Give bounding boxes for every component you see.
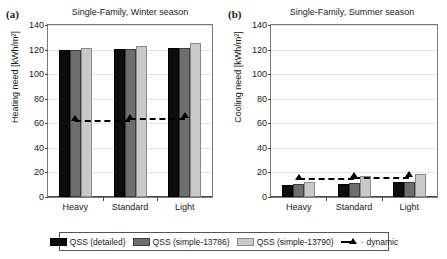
y-tick-label: 60: [34, 119, 44, 128]
gridline: [271, 50, 437, 51]
y-tick-mark: [45, 99, 48, 100]
x-tick-label: Standard: [336, 202, 373, 212]
figure-root: (a) Single-Family, Winter season Heating…: [0, 0, 447, 259]
bar: [125, 49, 136, 197]
bar: [393, 182, 404, 197]
chart-panel-b: (b) Single-Family, Summer season Cooling…: [224, 0, 447, 228]
gridline: [271, 74, 437, 75]
legend-label: dynamic: [366, 237, 398, 247]
y-tick-mark: [45, 172, 48, 173]
legend-label: QSS (simple-13786): [153, 237, 230, 247]
bar: [293, 184, 304, 197]
x-tick-label: Heavy: [63, 202, 89, 212]
y-tick-mark: [268, 99, 271, 100]
legend-label: QSS (simple-13790): [257, 237, 334, 247]
y-axis-label-a: Heating need [kWh/m²]: [10, 17, 20, 137]
dynamic-marker: [181, 112, 189, 118]
y-tick-mark: [45, 25, 48, 26]
dynamic-line-segment: [354, 177, 409, 179]
chart-title-b: Single-Family, Summer season: [264, 7, 440, 17]
y-tick-label: 100: [252, 70, 267, 79]
dynamic-line-segment: [130, 118, 185, 120]
bar: [338, 184, 349, 198]
dynamic-marker: [295, 174, 303, 180]
y-tick-mark: [268, 25, 271, 26]
dynamic-line-segment: [75, 120, 130, 122]
y-tick-mark: [268, 172, 271, 173]
y-axis-label-b: Cooling need [kWh/m²]: [233, 17, 243, 137]
y-tick-label: 120: [29, 45, 44, 54]
y-tick-mark: [45, 197, 48, 198]
x-tick-mark: [103, 197, 104, 201]
bar: [179, 48, 190, 197]
legend-swatch-icon: [133, 238, 150, 246]
y-tick-label: 40: [34, 143, 44, 152]
x-tick-label: Light: [400, 202, 420, 212]
x-tick-label: Standard: [112, 202, 149, 212]
y-tick-label: 80: [34, 94, 44, 103]
x-tick-mark: [157, 197, 158, 201]
x-tick-mark: [382, 197, 383, 201]
legend-swatch-icon: [237, 238, 254, 246]
dynamic-marker: [71, 115, 79, 121]
y-tick-mark: [268, 74, 271, 75]
legend-label: QSS (detailed): [70, 237, 126, 247]
y-tick-label: 0: [39, 193, 44, 202]
dynamic-marker: [350, 172, 358, 178]
bar: [70, 50, 81, 197]
y-tick-label: 140: [29, 21, 44, 30]
gridline: [271, 148, 437, 149]
y-tick-label: 140: [252, 21, 267, 30]
y-tick-label: 120: [252, 45, 267, 54]
bar: [304, 182, 315, 197]
y-tick-label: 0: [262, 193, 267, 202]
y-tick-mark: [268, 148, 271, 149]
bar: [360, 176, 371, 197]
y-tick-mark: [268, 50, 271, 51]
y-tick-label: 40: [257, 143, 267, 152]
legend: QSS (detailed)QSS (simple-13786)QSS (sim…: [59, 232, 389, 251]
bar: [404, 182, 415, 197]
y-tick-mark: [45, 74, 48, 75]
legend-item: QSS (simple-13786): [133, 237, 230, 247]
y-tick-label: 60: [257, 119, 267, 128]
y-tick-mark: [45, 50, 48, 51]
dynamic-marker: [126, 114, 134, 120]
bar: [114, 49, 125, 197]
dynamic-marker: [405, 171, 413, 177]
legend-swatch-icon: [50, 238, 67, 246]
gridline: [271, 25, 437, 26]
bar: [168, 48, 179, 197]
y-tick-label: 80: [257, 94, 267, 103]
gridline: [48, 25, 212, 26]
legend-item: QSS (simple-13790): [237, 237, 334, 247]
bar: [282, 185, 293, 197]
plot-area-b: 020406080100120140HeavyStandardLight: [270, 24, 438, 198]
y-tick-label: 100: [29, 70, 44, 79]
plot-area-a: 020406080100120140HeavyStandardLight: [47, 24, 213, 198]
chart-panel-a: (a) Single-Family, Winter season Heating…: [0, 0, 223, 228]
bar: [349, 183, 360, 197]
y-tick-mark: [268, 197, 271, 198]
bar: [415, 174, 426, 197]
dynamic-line-icon: [341, 238, 358, 246]
y-tick-label: 20: [257, 168, 267, 177]
y-tick-mark: [268, 123, 271, 124]
bar: [81, 48, 92, 197]
bar: [136, 46, 147, 197]
bar: [190, 43, 201, 197]
bar: [59, 50, 70, 197]
x-tick-mark: [326, 197, 327, 201]
y-tick-mark: [45, 123, 48, 124]
chart-title-a: Single-Family, Winter season: [46, 7, 214, 17]
gridline: [271, 99, 437, 100]
x-tick-label: Heavy: [286, 202, 312, 212]
legend-item: QSS (detailed): [50, 237, 126, 247]
legend-dash-dot: ·: [361, 237, 364, 247]
gridline: [271, 123, 437, 124]
x-tick-label: Light: [175, 202, 195, 212]
dynamic-line-segment: [299, 178, 354, 180]
legend-item: ·dynamic: [341, 237, 399, 247]
y-tick-mark: [45, 148, 48, 149]
y-tick-label: 20: [34, 168, 44, 177]
